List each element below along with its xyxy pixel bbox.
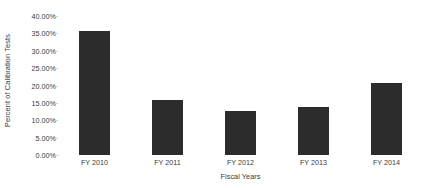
- y-axis-tick-label: 20.00%: [18, 81, 56, 90]
- bar: [298, 107, 329, 155]
- bar: [225, 111, 256, 155]
- y-axis-tick-label: 0.00%: [18, 151, 56, 160]
- y-axis-tick-label: 25.00%: [18, 64, 56, 73]
- bars-layer: [58, 16, 423, 155]
- y-axis-title: Percent of Calibration Tests: [0, 0, 16, 160]
- y-axis-tick-mark: [54, 103, 58, 104]
- y-axis-tick-label: 5.00%: [18, 133, 56, 142]
- y-axis-tick-mark: [54, 86, 58, 87]
- x-axis-tick-label: FY 2010: [55, 158, 135, 167]
- y-axis-tick-label: 35.00%: [18, 29, 56, 38]
- y-axis-tick-mark: [54, 68, 58, 69]
- y-axis-tick-mark: [54, 120, 58, 121]
- y-axis-tick-label: 40.00%: [18, 12, 56, 21]
- x-axis-tick-labels: FY 2010FY 2011FY 2012FY 2013FY 2014: [58, 158, 423, 172]
- y-axis-tick-label: 30.00%: [18, 46, 56, 55]
- bar: [152, 100, 183, 155]
- y-axis-tick-labels: 0.00%5.00%10.00%15.00%20.00%25.00%30.00%…: [18, 0, 56, 160]
- y-axis-tick-label: 15.00%: [18, 98, 56, 107]
- y-axis-title-label: Percent of Calibration Tests: [4, 33, 13, 126]
- x-axis-tick-label: FY 2012: [201, 158, 281, 167]
- y-axis-tick-mark: [54, 51, 58, 52]
- y-axis-tick-label: 10.00%: [18, 116, 56, 125]
- x-axis-title: Fiscal Years: [58, 172, 423, 181]
- x-axis-tick-label: FY 2014: [347, 158, 427, 167]
- y-axis-tick-mark: [54, 33, 58, 34]
- bar: [79, 31, 110, 155]
- bar: [371, 83, 402, 155]
- y-axis-tick-mark: [54, 16, 58, 17]
- x-axis-tick-label: FY 2013: [274, 158, 354, 167]
- x-axis-tick-label: FY 2011: [128, 158, 208, 167]
- y-axis-tick-mark: [54, 155, 58, 156]
- bar-chart: Percent of Calibration Tests 0.00%5.00%1…: [0, 0, 430, 188]
- y-axis-tick-mark: [54, 138, 58, 139]
